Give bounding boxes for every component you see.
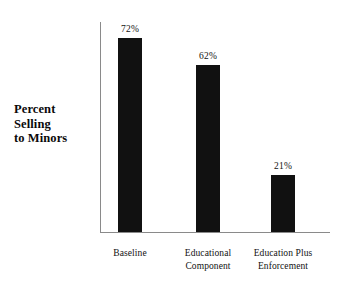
bar-education-plus-enforcement	[271, 175, 295, 232]
x-axis-line	[100, 232, 330, 233]
bar-value-education-plus-enforcement: 21%	[255, 161, 311, 172]
plot-area: 72% 62% 21%	[100, 22, 330, 233]
bar-chart-figure: Percent Selling to Minors 72% 62% 21% Ba…	[0, 0, 350, 285]
category-label-education-plus-enforcement-line-2: Enforcement	[235, 260, 331, 273]
y-axis-label: Percent Selling to Minors	[14, 102, 96, 146]
category-label-education-plus-enforcement: Education Plus Enforcement	[235, 247, 331, 272]
category-label-education-plus-enforcement-line-1: Education Plus	[235, 247, 331, 260]
y-axis-line	[100, 22, 101, 232]
y-axis-label-line-1: Percent	[14, 102, 96, 117]
y-axis-label-line-3: to Minors	[14, 131, 96, 146]
bar-educational-component	[196, 65, 220, 232]
bar-value-educational-component: 62%	[180, 51, 236, 62]
y-axis-label-line-2: Selling	[14, 117, 96, 132]
bar-baseline	[118, 38, 142, 232]
bar-value-baseline: 72%	[102, 24, 158, 35]
